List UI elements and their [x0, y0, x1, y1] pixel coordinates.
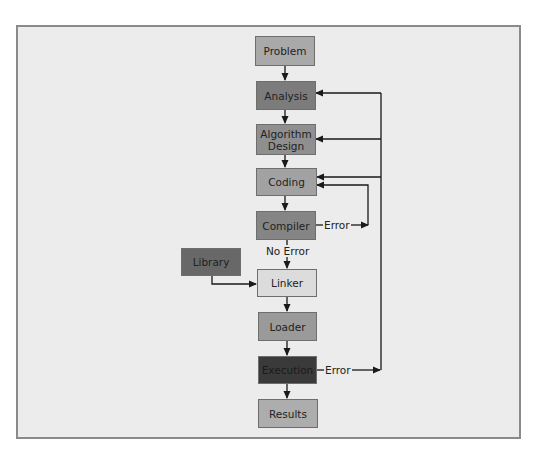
node-loader: Loader: [258, 312, 317, 341]
node-compiler: Compiler: [256, 211, 316, 240]
node-linker: Linker: [257, 269, 317, 297]
node-execution: Execution: [258, 356, 317, 384]
node-linker-label: Linker: [271, 277, 303, 289]
edge-label-no-error: No Error: [265, 245, 310, 257]
node-library-label: Library: [193, 256, 230, 268]
edge-library-linker: [212, 276, 256, 284]
node-compiler-label: Compiler: [262, 220, 309, 232]
edge-label-execution-error: Error: [324, 364, 352, 376]
node-results: Results: [258, 399, 318, 428]
node-results-label: Results: [269, 408, 307, 420]
node-coding-label: Coding: [268, 176, 305, 188]
node-problem-label: Problem: [264, 45, 307, 57]
node-algorithm-design-label: Algorithm Design: [259, 128, 313, 152]
node-problem: Problem: [255, 36, 315, 66]
node-execution-label: Execution: [262, 364, 314, 376]
node-coding: Coding: [256, 168, 317, 196]
node-analysis: Analysis: [256, 81, 316, 110]
node-algorithm-design: Algorithm Design: [256, 124, 316, 155]
node-library: Library: [181, 248, 241, 276]
node-analysis-label: Analysis: [264, 90, 307, 102]
node-loader-label: Loader: [270, 321, 306, 333]
edge-label-compiler-error: Error: [323, 219, 351, 231]
